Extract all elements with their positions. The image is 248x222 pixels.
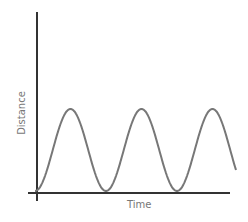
y-axis-label: Distance <box>16 91 27 135</box>
x-axis-label: Time <box>127 199 151 210</box>
chart <box>0 0 248 222</box>
distance-curve <box>35 109 236 191</box>
